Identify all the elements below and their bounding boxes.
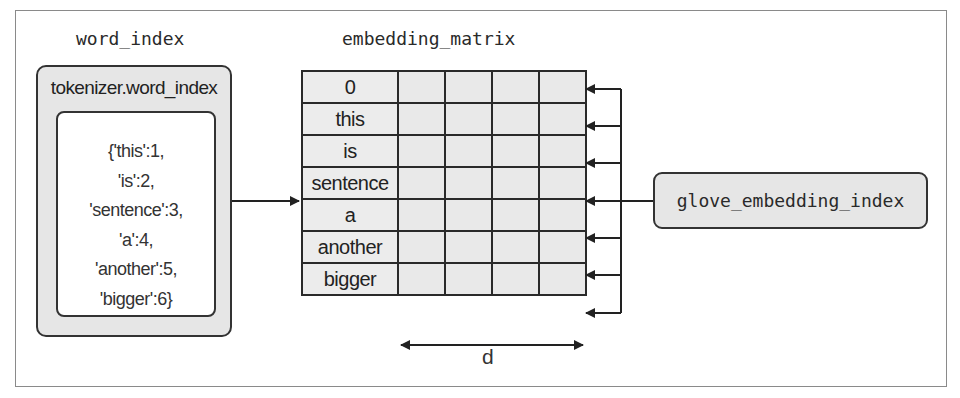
connector-arrows: [0, 0, 960, 398]
dimension-label: d: [482, 345, 494, 369]
